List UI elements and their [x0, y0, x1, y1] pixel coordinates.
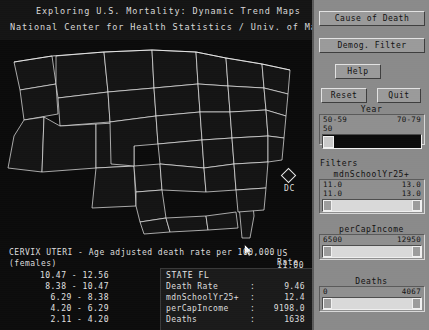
school-range-max: 13.0	[402, 180, 421, 189]
deaths-slider-thumb-right[interactable]	[412, 298, 421, 309]
school-range-slider[interactable]	[322, 199, 422, 212]
income-filter-group: 6500 12950	[319, 234, 425, 260]
deaths-range-labels: 0 4067	[320, 287, 424, 296]
year-min-label: 50-59	[323, 115, 347, 124]
dc-label: DC	[284, 184, 295, 193]
app-title-line1: Exploring U.S. Mortality: Dynamic Trend …	[36, 6, 301, 16]
state-info-value: 12.4	[258, 292, 312, 303]
map-legend: 10.47 - 12.56 8.38 - 10.47 6.29 - 8.38 4…	[0, 270, 155, 330]
demographic-filter-button[interactable]: Demog. Filter	[319, 38, 425, 53]
table-row: perCapIncome : 9198.0	[161, 303, 312, 314]
state-info-label: Deaths	[161, 314, 250, 325]
income-filter-heading: perCapIncome	[314, 225, 429, 234]
app-title-line2: National Center for Health Statistics / …	[10, 22, 312, 32]
state-info-separator: :	[250, 314, 258, 325]
school-range-min: 11.0	[323, 180, 342, 189]
table-row: Deaths : 1638	[161, 314, 312, 325]
deaths-filter-heading: Deaths	[314, 277, 429, 286]
us-choropleth-map[interactable]: DC US Rate 11.00	[0, 40, 312, 240]
income-range-slider[interactable]	[322, 245, 422, 258]
deaths-range-slider[interactable]	[322, 297, 422, 310]
school-slider-thumb-right[interactable]	[412, 200, 421, 211]
state-info-value: 9.46	[258, 281, 312, 292]
legend-row: 6.29 - 8.38	[0, 292, 155, 303]
state-info-value: 9198.0	[258, 303, 312, 314]
table-row: Death Rate : 9.46	[161, 281, 312, 292]
school-value-min: 11.0	[323, 189, 342, 198]
state-info-header: STATE FL	[161, 269, 312, 281]
year-range-labels: 50-59 70-79	[320, 115, 424, 124]
school-filter-group: 11.0 13.0 11.0 13.0	[319, 179, 425, 214]
school-range-labels: 11.0 13.0	[320, 180, 424, 189]
state-info-label: mdnSchoolYr25+	[161, 292, 250, 303]
year-slider-thumb[interactable]	[323, 136, 334, 148]
state-info-separator: :	[250, 281, 258, 292]
legend-row: 4.20 - 6.29	[0, 303, 155, 314]
map-area: Exploring U.S. Mortality: Dynamic Trend …	[0, 0, 312, 330]
state-info-separator: :	[250, 292, 258, 303]
deaths-range-max: 4067	[402, 287, 421, 296]
income-range-max: 12950	[397, 235, 421, 244]
school-filter-heading: mdnSchoolYr25+	[314, 170, 429, 179]
state-info-separator: :	[250, 303, 258, 314]
control-panel: Cause of Death Demog. Filter Help Reset …	[312, 0, 429, 330]
state-info-label: perCapIncome	[161, 303, 250, 314]
reset-button[interactable]: Reset	[321, 88, 367, 103]
year-slider[interactable]	[322, 134, 422, 149]
year-max-label: 70-79	[397, 115, 421, 124]
filters-section-heading: Filters	[320, 159, 358, 168]
income-range-min: 6500	[323, 235, 342, 244]
title-bar: Exploring U.S. Mortality: Dynamic Trend …	[0, 0, 312, 40]
deaths-range-min: 0	[323, 287, 328, 296]
legend-row: 8.38 - 10.47	[0, 281, 155, 292]
school-value-labels: 11.0 13.0	[320, 189, 424, 198]
year-section-heading: Year	[314, 105, 429, 114]
state-info-panel: STATE FL Death Rate : 9.46 mdnSchoolYr25…	[160, 268, 312, 330]
year-control-group: 50-59 70-79 50	[319, 114, 425, 145]
quit-button[interactable]: Quit	[377, 88, 421, 103]
caption-line2: (females)	[9, 259, 57, 268]
year-current-value: 50	[320, 124, 424, 133]
help-button[interactable]: Help	[335, 64, 381, 79]
cause-of-death-button[interactable]: Cause of Death	[319, 11, 425, 26]
deaths-filter-group: 0 4067	[319, 286, 425, 312]
legend-row: 10.47 - 12.56	[0, 270, 155, 281]
income-range-labels: 6500 12950	[320, 235, 424, 244]
state-info-label: Death Rate	[161, 281, 250, 292]
caption-line1: CERVIX UTERI - Age adjusted death rate p…	[9, 248, 275, 257]
legend-row: 2.11 - 4.20	[0, 314, 155, 325]
state-info-value: 1638	[258, 314, 312, 325]
income-slider-thumb-left[interactable]	[323, 246, 332, 257]
us-states-svg[interactable]	[0, 40, 312, 240]
income-slider-thumb-right[interactable]	[412, 246, 421, 257]
deaths-slider-thumb-left[interactable]	[323, 298, 332, 309]
table-row: mdnSchoolYr25+ : 12.4	[161, 292, 312, 303]
school-slider-thumb-left[interactable]	[323, 200, 332, 211]
school-value-max: 13.0	[402, 189, 421, 198]
